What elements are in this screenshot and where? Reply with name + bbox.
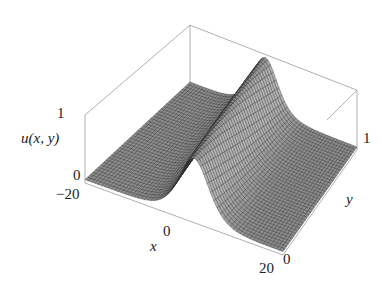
surface-plot: 1 u(x, y) 0 −20 0 x 20 0 1 y xyxy=(0,0,387,286)
z-tick-0: 0 xyxy=(73,167,81,183)
x-tick-minus20: −20 xyxy=(56,186,79,202)
x-tick-20: 20 xyxy=(259,260,274,276)
y-tick-1: 1 xyxy=(363,130,371,146)
z-axis-label: u(x, y) xyxy=(21,130,59,147)
x-axis-label: x xyxy=(149,238,157,254)
y-tick-0: 0 xyxy=(283,251,291,267)
z-tick-1: 1 xyxy=(57,105,65,121)
surface-mesh xyxy=(85,57,357,251)
y-axis-label: y xyxy=(344,191,353,207)
x-tick-0: 0 xyxy=(163,223,171,239)
